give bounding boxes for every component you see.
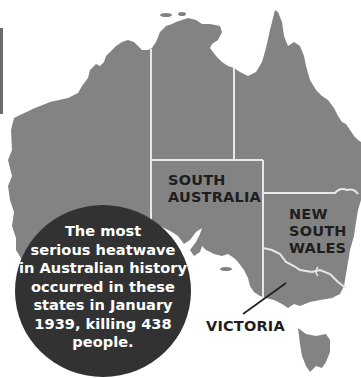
australia-map: SOUTH AUSTRALIA NEW SOUTH WALES VICTORIA… bbox=[0, 0, 361, 378]
label-victoria: VICTORIA bbox=[206, 318, 285, 335]
callout-text: The most serious heatwave in Australian … bbox=[18, 222, 188, 352]
callout-line: serious heatwave bbox=[18, 241, 188, 260]
label-new-south-wales: NEW SOUTH WALES bbox=[289, 206, 347, 257]
callout-line: states in January bbox=[18, 296, 188, 315]
label-line: NEW bbox=[289, 206, 347, 223]
label-line: SOUTH bbox=[168, 172, 261, 189]
label-south-australia: SOUTH AUSTRALIA bbox=[168, 172, 261, 206]
island bbox=[160, 13, 172, 17]
kangaroo-island bbox=[220, 267, 232, 271]
tasmania-land bbox=[298, 328, 330, 372]
callout-line: occurred in these bbox=[18, 278, 188, 297]
label-line: SOUTH bbox=[289, 223, 347, 240]
label-line: VICTORIA bbox=[206, 318, 285, 335]
label-line: AUSTRALIA bbox=[168, 189, 261, 206]
heatwave-callout: The most serious heatwave in Australian … bbox=[15, 205, 191, 377]
callout-line: people. bbox=[18, 333, 188, 352]
callout-line: The most bbox=[18, 222, 188, 241]
island bbox=[178, 12, 186, 16]
edge-strip bbox=[0, 28, 3, 114]
label-line: WALES bbox=[289, 240, 347, 257]
callout-line: 1939, killing 438 bbox=[18, 315, 188, 334]
callout-line: in Australian history bbox=[18, 259, 188, 278]
